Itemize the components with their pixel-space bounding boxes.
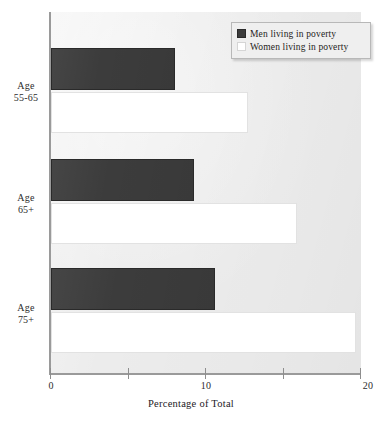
category-label-line-2: 75+ [3, 313, 49, 325]
bar-men-age-75-plus [51, 268, 215, 310]
bar-women-age-65-plus [51, 203, 297, 244]
legend-label-men: Men living in poverty [250, 29, 336, 39]
category-label-line-1: Age [17, 80, 34, 91]
category-label-age-55-65: Age 55-65 [3, 80, 49, 103]
x-axis-tick-15 [283, 368, 284, 379]
x-axis-tick-20 [360, 368, 361, 379]
category-label-line-2: 55-65 [3, 91, 49, 103]
x-axis-tick-5 [128, 368, 129, 379]
x-axis-tick-label-0: 0 [48, 380, 53, 391]
bar-men-age-65-plus [51, 159, 194, 201]
x-axis-tick-10 [205, 368, 206, 379]
legend-label-women: Women living in poverty [250, 42, 348, 52]
bar-men-age-55-65 [51, 48, 175, 90]
dark-square-swatch-icon [237, 29, 246, 38]
category-label-line-1: Age [17, 192, 34, 203]
category-label-line-2: 65+ [3, 203, 49, 215]
bar-women-age-75-plus [51, 312, 356, 353]
x-axis-tick-0 [50, 368, 51, 379]
legend-item-women: Women living in poverty [237, 40, 365, 53]
bar-women-age-55-65 [51, 92, 248, 133]
poverty-by-age-bar-chart: 0 10 20 Percentage of Total Age 55-65 Ag… [0, 0, 382, 425]
legend-item-men: Men living in poverty [237, 27, 365, 40]
white-square-swatch-icon [237, 42, 246, 51]
chart-legend: Men living in poverty Women living in po… [231, 22, 371, 59]
x-axis-title: Percentage of Total [0, 398, 382, 409]
x-axis-tick-label-10: 10 [201, 380, 211, 391]
category-label-line-1: Age [17, 302, 34, 313]
category-label-age-65-plus: Age 65+ [3, 192, 49, 215]
category-label-age-75-plus: Age 75+ [3, 302, 49, 325]
x-axis-tick-label-20: 20 [363, 380, 373, 391]
